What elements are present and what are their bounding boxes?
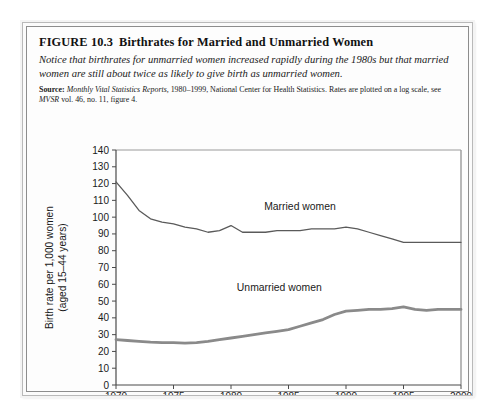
source-detail-1: 1980–1999, National Center for Health St… [169, 85, 441, 94]
x-axis-tick-label: 1975 [162, 391, 185, 395]
source-label: Source: [39, 85, 65, 94]
x-axis-tick-label: 1995 [392, 391, 415, 395]
y-axis-tick-label: 0 [103, 380, 109, 391]
y-axis-tick-label: 140 [92, 145, 109, 156]
x-axis-tick-label: 1980 [220, 391, 243, 395]
y-axis-tick-label: 40 [98, 312, 110, 323]
y-axis-title: Birth rate per 1,000 women(aged 15–44 ye… [44, 206, 68, 329]
y-axis-tick-label: 30 [98, 329, 110, 340]
x-axis-tick-label: 1970 [105, 391, 128, 395]
figure-inner-border: FIGURE 10.3Birthrates for Married and Un… [26, 26, 469, 392]
y-axis-title-line2: (aged 15–44 years) [57, 223, 68, 311]
y-axis-tick-label: 10 [98, 363, 110, 374]
plot-background [116, 150, 461, 385]
series-label-married-women: Married women [264, 201, 336, 212]
y-axis-tick-label: 110 [93, 195, 109, 206]
y-axis-tick-label: 80 [98, 245, 110, 256]
figure-source: Source: Monthly Vital Statistics Reports… [39, 85, 454, 105]
y-axis-tick-label: 120 [92, 178, 109, 189]
y-axis-tick-label: 100 [92, 212, 109, 223]
line-chart: 0102030405060708090100110120130140197019… [27, 123, 472, 395]
y-axis-tick-label: 130 [92, 161, 109, 172]
source-detail-2: vol. 46, no. 11, figure 4. [59, 95, 137, 104]
chart-plot-area: 0102030405060708090100110120130140197019… [27, 123, 472, 395]
source-abbrev: MVSR [39, 95, 59, 104]
figure-note: Notice that birthrates for unmarried wom… [39, 53, 449, 80]
x-axis-tick-label: 1985 [277, 391, 300, 395]
y-axis-title-line1: Birth rate per 1,000 women [44, 206, 55, 329]
figure-title-text: Birthrates for Married and Unmarried Wom… [119, 35, 373, 49]
x-axis-tick-label: 1990 [335, 391, 358, 395]
y-axis-tick-label: 70 [98, 262, 110, 273]
figure-title: FIGURE 10.3Birthrates for Married and Un… [39, 35, 456, 50]
y-axis-tick-label: 20 [98, 346, 110, 357]
series-label-unmarried-women: Unmarried women [237, 282, 322, 293]
figure-caption-block: FIGURE 10.3Birthrates for Married and Un… [39, 35, 456, 106]
x-axis-tick-label: 2000 [450, 391, 472, 395]
figure-frame: FIGURE 10.3Birthrates for Married and Un… [22, 22, 473, 396]
y-axis-tick-label: 50 [98, 296, 110, 307]
y-axis-tick-label: 60 [98, 279, 110, 290]
source-publication: Monthly Vital Statistics Reports, [67, 85, 169, 94]
y-axis-tick-label: 90 [98, 228, 110, 239]
figure-number: FIGURE 10.3 [39, 35, 113, 49]
